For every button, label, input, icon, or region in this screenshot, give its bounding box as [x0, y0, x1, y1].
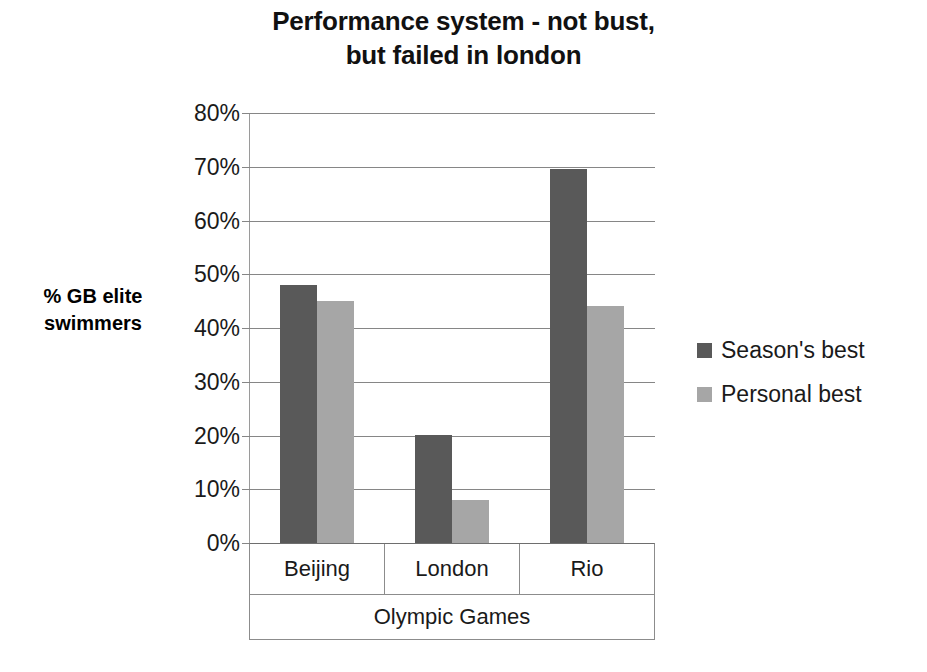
y-axis-tick-label: 70%	[165, 156, 240, 179]
y-axis-title-line-1: % GB elite	[8, 283, 178, 310]
gridline	[249, 221, 655, 222]
legend-swatch-icon	[697, 343, 712, 358]
gridline	[249, 167, 655, 168]
x-axis-title-label: Olympic Games	[374, 604, 530, 630]
y-axis-tick	[242, 436, 249, 437]
plot-area	[249, 113, 655, 543]
y-axis-tick	[242, 328, 249, 329]
y-axis-tick	[242, 274, 249, 275]
chart-legend: Season's bestPersonal best	[697, 328, 922, 416]
bar-beijing-personal-best	[317, 301, 354, 543]
gridline	[249, 274, 655, 275]
legend-label: Season's best	[721, 339, 865, 362]
x-axis-category-rio: Rio	[520, 544, 654, 594]
y-axis-tick-label: 10%	[165, 478, 240, 501]
y-axis-tick-label: 80%	[165, 102, 240, 125]
y-axis-tick-label: 0%	[165, 532, 240, 555]
y-axis-tick	[242, 382, 249, 383]
y-axis-tick-label: 20%	[165, 425, 240, 448]
legend-item-season-s-best: Season's best	[697, 328, 922, 372]
y-axis-tick-label: 60%	[165, 210, 240, 233]
legend-swatch-icon	[697, 387, 712, 402]
y-axis-tick-label: 50%	[165, 263, 240, 286]
y-axis-tick	[242, 489, 249, 490]
bar-london-personal-best	[452, 500, 489, 543]
x-axis-category-row: BeijingLondonRio	[249, 543, 655, 595]
bar-london-season-s-best	[415, 435, 452, 543]
y-axis-tick	[242, 113, 249, 114]
y-axis-tick	[242, 167, 249, 168]
bar-beijing-season-s-best	[280, 285, 317, 543]
y-axis-tick	[242, 221, 249, 222]
chart-title: Performance system - not bust, but faile…	[0, 4, 927, 72]
gridline	[249, 113, 655, 114]
chart-title-line-1: Performance system - not bust,	[0, 4, 927, 38]
chart-title-line-2: but failed in london	[0, 38, 927, 72]
y-axis-tick-labels: 80%70%60%50%40%30%20%10%0%	[165, 113, 240, 543]
y-axis-tick-label: 30%	[165, 371, 240, 394]
x-axis-category-london: London	[385, 544, 520, 594]
y-axis-tick	[242, 543, 249, 544]
bar-rio-personal-best	[587, 306, 624, 543]
legend-item-personal-best: Personal best	[697, 372, 922, 416]
y-axis-title-line-2: swimmers	[8, 310, 178, 337]
y-axis-title: % GB elite swimmers	[8, 283, 178, 337]
y-axis-tick-label: 40%	[165, 317, 240, 340]
legend-label: Personal best	[721, 383, 862, 406]
x-axis-category-beijing: Beijing	[250, 544, 385, 594]
x-axis-title: Olympic Games	[249, 594, 655, 640]
bar-rio-season-s-best	[550, 169, 587, 543]
